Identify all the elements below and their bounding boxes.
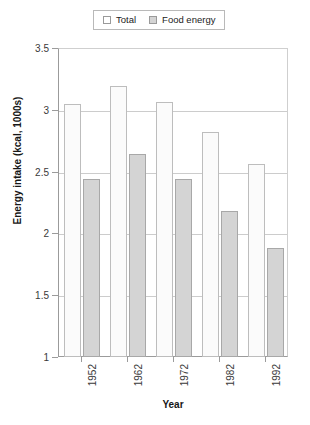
- x-axis-title: Year: [58, 399, 288, 410]
- x-tick-mark: [81, 357, 82, 362]
- y-tick-label: 2.5: [35, 166, 49, 177]
- bar-chart: Total Food energy 11.522.533.5 Energy in…: [0, 0, 310, 425]
- y-tick-label: 1: [43, 352, 49, 363]
- bar-total-1982: [202, 132, 219, 357]
- y-tick-label: 1.5: [35, 290, 49, 301]
- x-tick-mark: [265, 357, 266, 362]
- legend-entry-food-energy: Food energy: [149, 15, 215, 25]
- bar-food-energy-1982: [221, 211, 238, 357]
- legend-label-food-energy: Food energy: [162, 15, 215, 25]
- y-tick-label: 2: [43, 228, 49, 239]
- x-tick-mark: [219, 357, 220, 362]
- x-tick-mark: [173, 357, 174, 362]
- bar-total-1972: [156, 102, 173, 357]
- bars-layer: [59, 48, 288, 357]
- legend-label-total: Total: [116, 15, 136, 25]
- bar-total-1992: [248, 164, 265, 357]
- y-tick-label: 3: [43, 104, 49, 115]
- x-tick-mark: [127, 357, 128, 362]
- bar-total-1962: [110, 86, 127, 357]
- chart-legend: Total Food energy: [93, 10, 225, 30]
- y-tick-mark: [52, 357, 58, 358]
- bar-food-energy-1992: [267, 248, 284, 357]
- legend-entry-total: Total: [103, 15, 136, 25]
- bar-total-1952: [64, 104, 81, 357]
- y-tick-label: 3.5: [35, 43, 49, 54]
- y-axis: 11.522.533.5: [0, 0, 58, 425]
- y-axis-title: Energy intake (kcal, 1000s): [12, 81, 23, 241]
- bar-food-energy-1962: [129, 154, 146, 357]
- white-square-icon: [103, 16, 111, 24]
- gray-square-icon: [149, 16, 157, 24]
- bar-food-energy-1972: [175, 179, 192, 357]
- bar-food-energy-1952: [83, 179, 100, 357]
